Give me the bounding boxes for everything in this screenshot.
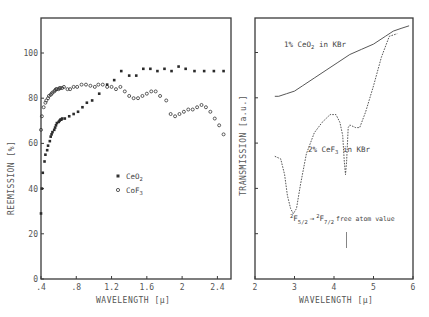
ceo2-point — [68, 115, 71, 118]
ceo2-point — [54, 126, 57, 129]
ceo2-point — [86, 101, 89, 104]
legend-ceo2-label: CeO2 — [126, 172, 143, 182]
ceo2-point — [50, 133, 53, 136]
x-tick-label: 5 — [371, 283, 376, 292]
ceo2-point — [81, 106, 84, 109]
cof3-point — [182, 110, 185, 113]
cof3-point — [128, 94, 131, 97]
cef3-curve-label: 2% CeF3 in KBr — [308, 145, 370, 155]
cof3-point — [154, 90, 157, 93]
cof3-point — [169, 113, 172, 116]
x-tick-label: 1.2 — [104, 283, 119, 292]
ceo2-point — [47, 144, 50, 147]
cof3-point — [72, 85, 75, 88]
transition-label: 2F5/2→2F7/2 — [290, 213, 334, 225]
x-tick-label: 3 — [292, 283, 297, 292]
ceo2-point — [142, 68, 145, 71]
ceo2-point — [49, 135, 52, 138]
ceo2-point — [135, 74, 138, 77]
y-tick-label: 100 — [24, 49, 39, 58]
cof3-point — [137, 97, 140, 100]
ceo2-point — [177, 65, 180, 68]
ceo2-point — [41, 187, 44, 190]
x-tick-label: 6 — [411, 283, 416, 292]
cef3-transmission-curve — [275, 34, 397, 214]
ceo2-point — [77, 110, 80, 113]
ceo2-point — [120, 70, 123, 73]
cof3-point — [159, 94, 162, 97]
cof3-point — [80, 83, 83, 86]
y-tick-label: 20 — [28, 230, 38, 239]
left-x-axis-label: WAVELENGTH [μ] — [96, 296, 170, 305]
right-x-axis-label: WAVELENGTH [μ] — [299, 296, 373, 305]
y-tick-label: 60 — [28, 139, 38, 148]
ceo2-point — [49, 140, 52, 143]
x-tick-label: 2 — [180, 283, 185, 292]
cof3-point — [89, 84, 92, 87]
right-panel: 23456 1% CeO2 in KBr 2% CeF3 in KBr 2F5/… — [239, 18, 416, 305]
ceo2-point — [149, 68, 152, 71]
y-tick-label: 40 — [28, 185, 38, 194]
right-y-axis-label: TRANSMISSION [a.u.] — [239, 95, 248, 196]
transition-annotation: 2F5/2→2F7/2 free atom value — [290, 213, 395, 248]
cof3-legend-marker-icon — [116, 188, 119, 191]
ceo2-point — [55, 124, 58, 127]
cof3-point — [101, 83, 104, 86]
cof3-point — [42, 106, 45, 109]
cof3-point — [141, 94, 144, 97]
ceo2-point — [113, 79, 116, 82]
cof3-point — [191, 108, 194, 111]
x-tick-label: 4 — [332, 283, 337, 292]
cof3-point — [218, 124, 221, 127]
ceo2-curve-label: 1% CeO2 in KBr — [284, 40, 346, 50]
left-panel: 020406080100 .4.81.21.622.4 WAVELENGTH [… — [7, 18, 231, 305]
ceo2-point — [98, 92, 101, 95]
cof3-point — [200, 103, 203, 106]
ceo2-point — [91, 99, 94, 102]
cof3-point — [222, 133, 225, 136]
figure-canvas: 020406080100 .4.81.21.622.4 WAVELENGTH [… — [0, 0, 429, 317]
x-tick-label: .8 — [71, 283, 81, 292]
legend: CeO2 CoF3 — [116, 172, 142, 196]
cof3-point — [178, 113, 181, 116]
cof3-point — [132, 97, 135, 100]
cof3-point — [209, 110, 212, 113]
ceo2-point — [61, 117, 64, 120]
cof3-point — [174, 115, 177, 118]
ceo2-point — [72, 113, 75, 116]
cof3-point — [213, 117, 216, 120]
cof3-point — [204, 106, 207, 109]
ceo2-point — [46, 149, 49, 152]
x-tick-label: 2.4 — [210, 283, 225, 292]
left-plot-frame — [41, 18, 231, 279]
cof3-point — [165, 99, 168, 102]
ceo2-point — [222, 70, 225, 73]
ceo2-point — [193, 70, 196, 73]
legend-cof3-label: CoF3 — [126, 186, 143, 196]
ceo2-point — [184, 68, 187, 71]
cof3-point — [119, 85, 122, 88]
ceo2-point — [128, 74, 131, 77]
left-y-axis-label: REEMISSION [%] — [7, 141, 16, 215]
ceo2-point — [213, 70, 216, 73]
ceo2-point — [43, 160, 46, 163]
free-atom-value-label: free atom value — [336, 215, 395, 223]
ceo2-point — [51, 131, 54, 134]
ceo2-point — [53, 129, 56, 132]
ceo2-legend-marker-icon — [117, 175, 120, 178]
x-tick-label: 2 — [253, 283, 258, 292]
ceo2-point — [156, 70, 159, 73]
ceo2-point — [163, 68, 166, 71]
ceo2-point — [170, 70, 173, 73]
cof3-point — [187, 108, 190, 111]
cof3-point — [150, 90, 153, 93]
cof3-point — [84, 83, 87, 86]
x-tick-label: .4 — [36, 283, 46, 292]
cof3-point — [114, 88, 117, 91]
y-tick-label: 80 — [28, 94, 38, 103]
cof3-point — [145, 92, 148, 95]
x-tick-label: 1.6 — [140, 283, 155, 292]
cof3-point — [196, 106, 199, 109]
cof3-point — [123, 90, 126, 93]
ceo2-point — [64, 117, 67, 120]
